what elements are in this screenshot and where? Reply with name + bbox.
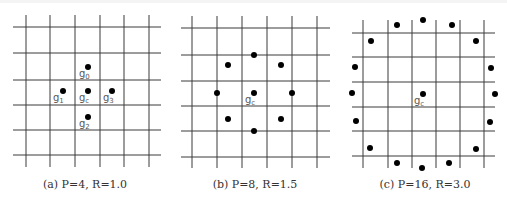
neighbor-sample-dot [487,119,493,125]
center-pixel-dot [420,91,426,97]
neighbor-sample-dot [446,160,452,166]
neighbor-sample-dot [353,118,359,124]
neighbor-sample-dot [349,90,355,96]
caption-panel-a: (a) P=4, R=1.0 [43,178,127,191]
neighbor-sample-dot [492,91,498,97]
center-pixel-dot [85,88,91,94]
panel-a: gcg0g1g2g3 [13,15,161,167]
neighbor-sample-dot [85,64,91,70]
neighbor-sample-dot [394,22,400,28]
neighbor-sample-dot [60,88,66,94]
neighbor-sample-dot [85,114,91,120]
neighbor-sample-dot [449,22,455,28]
neighbor-sample-dot [251,128,257,134]
neighbor-sample-dot [289,90,295,96]
caption-panel-b: (b) P=8, R=1.5 [213,178,298,191]
neighbor-sample-dot [352,64,358,70]
neighbor-sample-dot [367,145,373,151]
neighbor-sample-dot [419,165,425,171]
neighbor-sample-dot [368,38,374,44]
neighbor-sample-dot [488,65,494,71]
neighbor-sample-dot [473,38,479,44]
neighbor-sample-dot [278,116,284,122]
panel-c: gc [349,17,498,171]
neighbor-sample-dot [251,52,257,58]
neighbor-sample-dot [473,146,479,152]
neighbor-sample-dot [278,62,284,68]
neighbor-sample-dot [420,17,426,23]
neighbor-sample-dot [214,90,220,96]
neighbor-sample-dot [394,160,400,166]
neighbor-sample-dot [109,88,115,94]
neighbor-sample-dot [225,62,231,68]
center-pixel-dot [251,90,257,96]
neighbor-label: g1 [53,92,64,105]
neighbor-sample-dot [225,116,231,122]
lbp-neighborhood-figure: gcg0g1g2g3gcgc [0,0,507,201]
caption-panel-c: (c) P=16, R=3.0 [380,178,471,191]
panel-b: gc [181,16,330,168]
